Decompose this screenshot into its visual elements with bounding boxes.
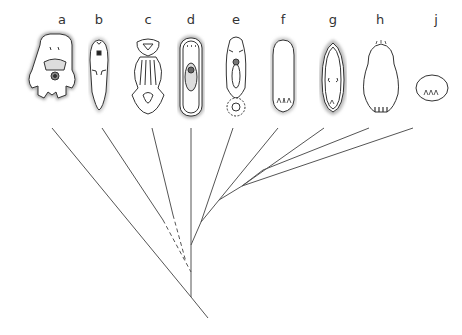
branch-f — [219, 128, 278, 200]
organism-c-icon — [132, 39, 164, 114]
branch-j — [242, 128, 413, 186]
branch-h — [263, 128, 369, 170]
branch-b-solid — [102, 128, 163, 220]
phylogenetic-tree — [52, 128, 413, 318]
organism-h-icon — [364, 40, 399, 112]
diagram-canvas — [0, 0, 462, 335]
organism-f-icon — [273, 40, 294, 112]
branch-c-dashed — [173, 215, 186, 262]
organism-e-icon — [226, 37, 246, 116]
branch-e-stem — [191, 222, 201, 245]
branch-c-solid — [152, 128, 173, 215]
branch-b-dashed — [163, 220, 191, 272]
organism-a-icon — [29, 34, 75, 98]
organism-d-icon — [180, 38, 202, 116]
branch-e — [201, 128, 233, 222]
branch-a — [52, 128, 191, 297]
root-branch — [191, 297, 208, 318]
organism-b-icon — [90, 40, 108, 110]
organism-j-icon — [416, 75, 448, 101]
branch-g-stem — [219, 186, 242, 200]
organism-g-icon — [322, 43, 344, 112]
branch-h-stem — [242, 170, 263, 186]
branch-f-stem — [201, 200, 219, 222]
